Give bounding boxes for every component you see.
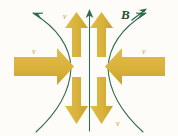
label-B-text: B bbox=[120, 7, 130, 22]
physics-diagram-figure: B v v v v bbox=[0, 0, 178, 136]
label-inflow-right: v bbox=[142, 47, 146, 56]
outflow-arrow-down-right bbox=[90, 77, 113, 124]
label-outflow-bottom: v bbox=[116, 119, 120, 128]
inflow-arrow-right bbox=[105, 48, 165, 85]
outflow-arrow-up-left bbox=[65, 12, 88, 57]
label-outflow-top: v bbox=[63, 12, 67, 21]
inflow-arrow-left bbox=[14, 48, 74, 85]
diagram-canvas: B v v v v bbox=[0, 0, 178, 136]
outflow-arrow-up-right bbox=[90, 12, 113, 57]
label-inflow-left: v bbox=[32, 47, 36, 56]
